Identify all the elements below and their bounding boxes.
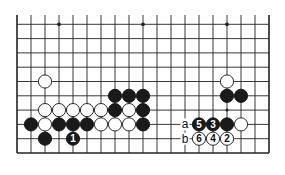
move-number-4: 4: [210, 133, 216, 144]
black-stone: [122, 89, 135, 102]
white-stone: [94, 104, 107, 117]
white-stone: [122, 104, 135, 117]
point-markers: [226, 109, 229, 112]
move-number-6: 6: [196, 133, 202, 144]
black-stone: [234, 89, 247, 102]
black-stone: [136, 118, 149, 131]
star-point-icon: [141, 22, 145, 26]
star-point-icon: [57, 22, 61, 26]
white-stone: [52, 104, 65, 117]
move-number-1: 1: [70, 133, 76, 144]
dot-marker-icon: [226, 109, 229, 112]
white-stone: [66, 104, 79, 117]
black-stone: [66, 118, 79, 131]
white-stone: [38, 118, 51, 131]
white-stone: [108, 118, 121, 131]
black-stone: [108, 89, 121, 102]
move-number-3: 3: [210, 119, 216, 130]
white-stone: [220, 75, 233, 88]
go-board: ab 531642: [0, 0, 285, 175]
black-stone: [38, 132, 51, 145]
white-stone: [80, 104, 93, 117]
black-stone: [24, 118, 37, 131]
black-stone: [108, 104, 121, 117]
move-number-5: 5: [196, 119, 202, 130]
black-stone: [220, 118, 233, 131]
black-stone: [136, 89, 149, 102]
move-number-2: 2: [224, 133, 230, 144]
black-stone: [136, 104, 149, 117]
black-stone: [220, 89, 233, 102]
white-stone: [234, 118, 247, 131]
white-stone: [38, 75, 51, 88]
black-stone: [52, 118, 65, 131]
point-label-a: a: [182, 117, 189, 131]
point-label-b: b: [182, 132, 189, 146]
black-stone: [80, 118, 93, 131]
point-labels: ab: [181, 117, 190, 145]
white-stone: [38, 104, 51, 117]
white-stone: [122, 118, 135, 131]
star-point-icon: [225, 22, 229, 26]
white-stone: [94, 118, 107, 131]
